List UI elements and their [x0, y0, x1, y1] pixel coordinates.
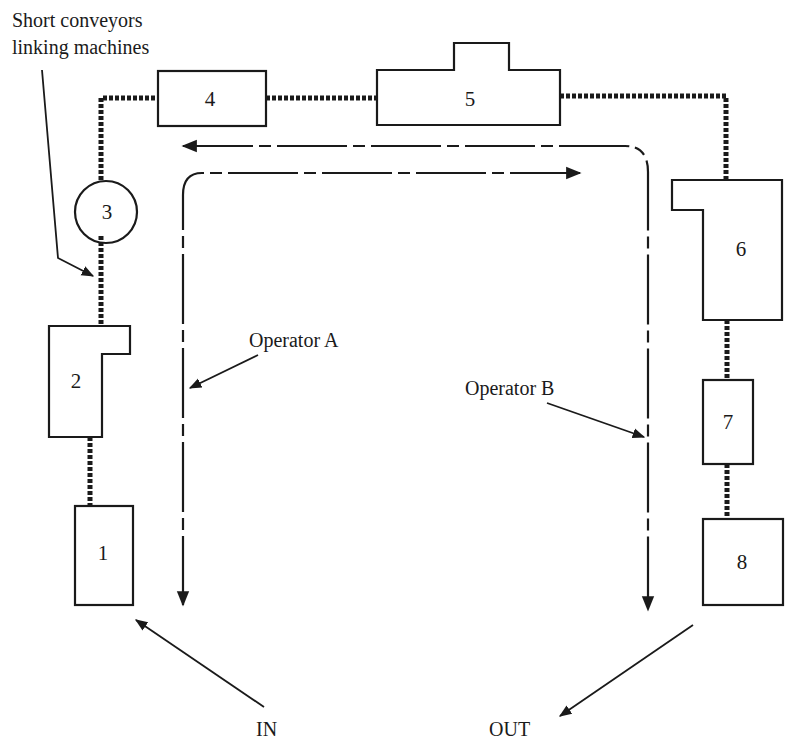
machine-1-label: 1 — [98, 541, 109, 565]
machine-1: 1 — [75, 506, 133, 605]
machine-4-label: 4 — [205, 87, 216, 111]
operator-b-label: Operator B — [465, 377, 554, 400]
operator-a-leader — [190, 355, 258, 388]
operator-a-label: Operator A — [249, 329, 339, 352]
machine-3-label: 3 — [102, 200, 113, 224]
machine-4: 4 — [158, 71, 266, 126]
machine-5-label: 5 — [465, 87, 476, 111]
operator-b-annotation: Operator B — [465, 377, 644, 437]
out-flow: OUT — [489, 625, 693, 740]
conveyor-5-6 — [560, 96, 726, 180]
conveyor-note-leader — [42, 70, 93, 276]
conveyor-note-line1: Short conveyors — [12, 9, 143, 32]
machine-7-label: 7 — [723, 410, 734, 434]
machine-6-label: 6 — [736, 237, 747, 261]
machine-8: 8 — [703, 519, 783, 605]
machine-5: 5 — [377, 43, 560, 125]
conveyor-3-4 — [101, 98, 158, 180]
conveyor-note-line2: linking machines — [12, 36, 149, 59]
in-arrow — [136, 620, 264, 707]
machine-6: 6 — [672, 180, 782, 320]
conveyor-annotation: Short conveyors linking machines — [12, 9, 149, 276]
production-layout-diagram: 1 2 3 4 5 6 7 8 Short conveyors linking … — [0, 0, 801, 756]
machine-2-label: 2 — [71, 369, 82, 393]
machine-2: 2 — [49, 326, 130, 437]
operator-a-annotation: Operator A — [190, 329, 339, 388]
conveyor-links — [90, 96, 727, 519]
operator-b-leader — [547, 403, 644, 437]
in-label: IN — [256, 718, 277, 740]
in-flow: IN — [136, 620, 277, 740]
out-arrow — [560, 625, 693, 716]
machine-3: 3 — [75, 181, 137, 243]
operator-b-path — [183, 146, 648, 610]
machine-7: 7 — [703, 380, 753, 464]
machine-8-label: 8 — [737, 550, 748, 574]
out-label: OUT — [489, 718, 530, 740]
